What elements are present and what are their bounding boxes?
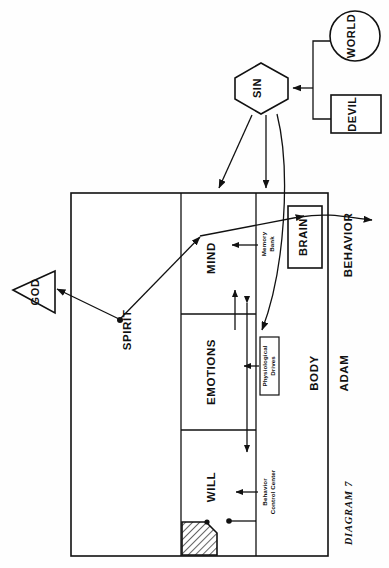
- behavior-label: BEHAVIOR: [342, 213, 354, 278]
- behavior-control-center-label-line2: Control Center: [269, 469, 276, 514]
- region-label-emotions: EMOTIONS: [205, 339, 217, 405]
- god-label: GOD: [29, 279, 41, 306]
- diagram-page: SPIRIT MIND EMOTIONS WILL BODY ADAM BRAI…: [0, 0, 389, 568]
- memory-bank-label-line1: Memory: [260, 231, 267, 256]
- region-label-will: WILL: [205, 472, 217, 503]
- memory-bank-label-line2: Bank: [268, 236, 275, 252]
- person-label-adam: ADAM: [338, 355, 350, 392]
- figure-caption: DIAGRAM 7: [343, 481, 354, 547]
- physiological-drives-label-line1: Physiological: [261, 345, 268, 386]
- region-label-mind: MIND: [205, 242, 217, 274]
- behavior-control-center-label-line1: Behavior: [261, 478, 268, 506]
- brain-label: BRAIN: [297, 218, 309, 256]
- sin-node: SIN: [235, 63, 288, 114]
- devil-node: DEVIL: [331, 95, 381, 133]
- diagram-canvas: SPIRIT MIND EMOTIONS WILL BODY ADAM BRAI…: [0, 0, 389, 568]
- world-devil-to-sin-connector: [293, 41, 331, 119]
- god-node: GOD: [13, 271, 55, 313]
- sin-label: SIN: [251, 78, 263, 98]
- block-anchor-dot: [204, 519, 209, 524]
- physiological-drives-label-line2: Drives: [269, 356, 276, 376]
- world-node: WORLD: [330, 11, 380, 61]
- devil-label: DEVIL: [346, 96, 358, 131]
- region-label-body: BODY: [308, 355, 320, 391]
- world-label: WORLD: [345, 14, 357, 59]
